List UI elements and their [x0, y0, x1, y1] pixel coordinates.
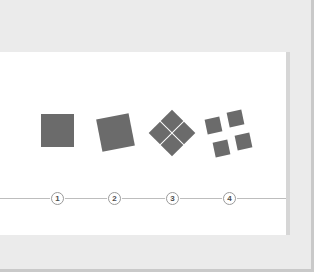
square-shape-bottom-left [213, 140, 231, 158]
square-shape [41, 114, 74, 147]
shape-group-single-square [41, 114, 74, 147]
square-shape-top-right [227, 110, 245, 128]
diagram-canvas: 1 2 3 4 [0, 0, 319, 279]
step-marker-2[interactable]: 2 [108, 192, 121, 205]
page-edge-bottom [0, 269, 314, 272]
square-shape-bottom-right [235, 133, 253, 151]
shape-group-four-diamonds [150, 111, 192, 155]
shape-group-four-separated-squares [203, 105, 255, 157]
page-edge-right [311, 0, 314, 269]
square-shape-top-left [205, 117, 223, 135]
square-shape-rotated [96, 113, 135, 152]
step-marker-1[interactable]: 1 [51, 192, 64, 205]
step-marker-4[interactable]: 4 [223, 192, 236, 205]
step-marker-3[interactable]: 3 [166, 192, 179, 205]
timeline-axis [0, 198, 286, 199]
content-card-edge [286, 52, 290, 235]
shape-group-rotated-square [96, 112, 136, 154]
